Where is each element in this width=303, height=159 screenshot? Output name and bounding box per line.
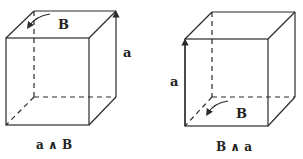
label-a: a [123,45,132,60]
label-b: B [236,106,247,121]
top-left-edge [185,12,212,39]
cube-a-wedge-b: B a a ∧ B [6,11,132,152]
caption-b-wedge-a: B ∧ a [216,140,252,154]
bottom-right-edge [89,97,116,125]
bivector-b-curved-arrow [208,101,228,113]
label-a: a [170,74,179,89]
top-right-edge [89,11,116,38]
top-right-edge [268,12,295,39]
cube-b-wedge-a: B a B ∧ a [170,12,295,154]
caption-a-wedge-b: a ∧ B [36,138,72,152]
bottom-right-edge [268,97,295,126]
hidden-edge [185,97,212,126]
hidden-edge [6,97,34,125]
bivector-b-curved-arrow [29,14,50,26]
label-b: B [58,17,69,32]
wedge-product-diagram: B a a ∧ B B a B ∧ a [0,0,303,159]
